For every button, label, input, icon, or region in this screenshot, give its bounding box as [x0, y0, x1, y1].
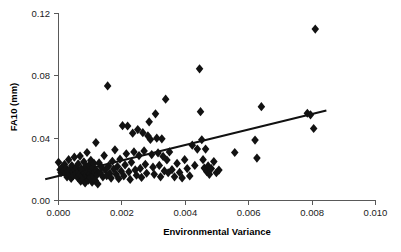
data-point-marker: [149, 163, 157, 172]
data-point-marker: [158, 134, 166, 143]
x-tick-label: 0.006: [237, 207, 261, 218]
data-point-marker: [92, 138, 100, 147]
data-point-marker: [100, 151, 108, 160]
data-point-marker: [152, 109, 160, 118]
chart-canvas: 0.0000.0020.0040.0060.0080.0100.000.040.…: [0, 0, 401, 252]
x-tick-label: 0.008: [300, 207, 324, 218]
data-point-marker: [310, 124, 318, 133]
data-point-marker: [126, 175, 134, 184]
data-point-marker: [197, 107, 205, 116]
plot-area: 0.0000.0020.0040.0060.0080.0100.000.040.…: [8, 8, 387, 236]
x-tick-label: 0.000: [47, 207, 71, 218]
data-point-marker: [258, 102, 266, 111]
data-point-group: [55, 24, 319, 188]
data-point-marker: [196, 64, 204, 73]
x-axis-title: Environmental Variance: [163, 226, 271, 237]
data-point-marker: [123, 149, 131, 158]
data-point-marker: [191, 161, 199, 170]
data-point-marker: [145, 117, 153, 126]
data-point-marker: [199, 155, 207, 164]
x-tick-label: 0.002: [110, 207, 134, 218]
data-point-marker: [148, 150, 156, 159]
y-tick-label: 0.12: [32, 8, 51, 19]
data-point-marker: [231, 148, 239, 157]
data-point-marker: [162, 95, 170, 104]
data-point-marker: [150, 170, 158, 179]
data-point-marker: [111, 145, 119, 154]
data-point-marker: [173, 159, 181, 168]
data-point-marker: [181, 155, 189, 164]
data-point-marker: [311, 24, 319, 33]
y-tick-label: 0.00: [32, 195, 51, 206]
y-axis-title: FA10 (mm): [8, 83, 19, 132]
data-point-marker: [83, 148, 91, 157]
y-tick-label: 0.08: [32, 70, 51, 81]
data-point-marker: [253, 154, 261, 163]
x-tick-label: 0.010: [364, 207, 388, 218]
data-point-marker: [104, 81, 112, 90]
data-point-marker: [251, 135, 259, 144]
y-tick-label: 0.04: [32, 133, 51, 144]
x-tick-label: 0.004: [173, 207, 197, 218]
data-point-marker: [124, 121, 132, 130]
scatter-plot-figure: 0.0000.0020.0040.0060.0080.0100.000.040.…: [0, 0, 401, 252]
data-point-marker: [198, 135, 206, 144]
data-point-marker: [156, 161, 164, 170]
data-point-marker: [202, 144, 210, 153]
